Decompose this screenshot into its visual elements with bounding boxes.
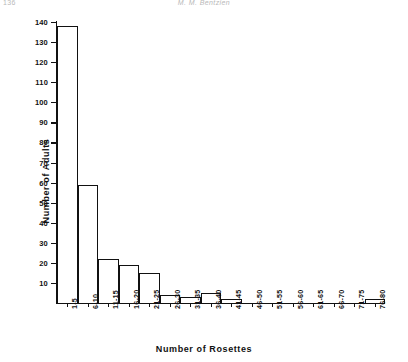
x-axis-tick (272, 303, 273, 307)
x-axis-tick (231, 303, 232, 307)
x-axis-tick-label: 56-60 (296, 290, 305, 309)
x-axis-tick (211, 303, 212, 307)
x-axis-tick (108, 303, 109, 307)
x-axis-tick-label: 51-55 (275, 290, 284, 309)
y-axis-tick-label: 120 (35, 58, 48, 67)
x-axis-tick-label: 6-10 (91, 294, 100, 309)
x-axis-title: Number of Rosettes (0, 344, 408, 354)
x-axis-tick-label: 71-75 (357, 290, 366, 309)
histogram-bar (78, 185, 99, 303)
y-axis-tick-label: 110 (35, 78, 48, 87)
x-axis-tick (88, 303, 89, 307)
y-axis-tick-label: 100 (35, 98, 48, 107)
x-axis-tick-label: 41-45 (234, 290, 243, 309)
x-axis-tick (170, 303, 171, 307)
x-axis-tick-label: 26-30 (173, 290, 182, 309)
x-axis-tick-label: 16-20 (132, 290, 141, 309)
figure-page: 136 M. M. Bentzien 102030405060708090100… (0, 0, 408, 362)
x-axis-tick-label: 21-25 (152, 290, 161, 309)
x-axis-tick-label: 11-15 (111, 290, 120, 309)
x-axis-tick-label: 1-5 (70, 298, 79, 309)
x-axis-tick (67, 303, 68, 307)
x-axis-tick-label: 46-50 (255, 290, 264, 309)
x-axis-tick (375, 303, 376, 307)
histogram-bar (57, 26, 78, 303)
y-axis-tick-label: 90 (39, 118, 48, 127)
running-head: 136 M. M. Bentzien (0, 0, 408, 8)
running-head-title: M. M. Bentzien (0, 0, 408, 6)
x-axis-tick (313, 303, 314, 307)
x-axis-tick-label: 76-80 (378, 290, 387, 309)
x-axis-tick (334, 303, 335, 307)
y-axis-tick-label: 30 (39, 238, 48, 247)
x-axis-tick-label: 36-40 (214, 290, 223, 309)
x-axis-tick-label: 66-70 (337, 290, 346, 309)
plot-area: 102030405060708090100110120130140 (57, 22, 385, 303)
y-axis-tick (51, 22, 57, 23)
x-axis-tick (129, 303, 130, 307)
y-axis-tick-label: 10 (39, 278, 48, 287)
x-axis-tick-label: 61-65 (316, 290, 325, 309)
y-axis-tick-label: 20 (39, 258, 48, 267)
x-axis-tick-label: 31-35 (193, 290, 202, 309)
x-axis-tick (252, 303, 253, 307)
x-axis-tick (293, 303, 294, 307)
x-axis-tick (190, 303, 191, 307)
y-axis-tick-label: 140 (35, 18, 48, 27)
x-axis-tick (149, 303, 150, 307)
y-axis-tick-label: 130 (35, 38, 48, 47)
x-axis-tick (354, 303, 355, 307)
y-axis-title: Number of Adults (41, 139, 51, 224)
